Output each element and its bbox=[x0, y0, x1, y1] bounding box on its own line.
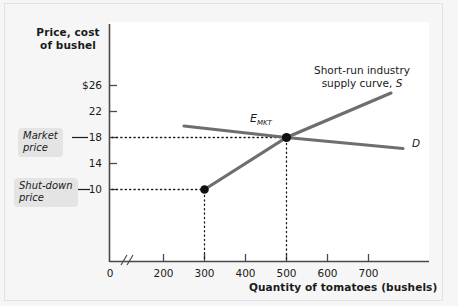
market-price-callout: Market price bbox=[18, 128, 63, 157]
y-tick-label-22: 22 bbox=[68, 106, 102, 117]
supply-curve-label-text: supply curve, bbox=[322, 77, 393, 89]
equilibrium-label-subscript: MKT bbox=[257, 119, 272, 127]
x-tick-label-500: 500 bbox=[270, 268, 304, 279]
supply-curve-label: Short-run industry supply curve, S bbox=[302, 64, 422, 90]
shutdown-point-marker bbox=[200, 185, 209, 194]
x-axis-origin-label: 0 bbox=[93, 268, 127, 279]
x-tick-label-400: 400 bbox=[229, 268, 263, 279]
axis-break-icon bbox=[121, 255, 133, 265]
market-price-callout-line1: Market bbox=[23, 130, 58, 142]
equilibrium-point-label: EMKT bbox=[250, 112, 272, 127]
y-tick-label-14: 14 bbox=[68, 158, 102, 169]
shutdown-price-callout-line1: Shut-down bbox=[19, 180, 73, 192]
x-tick-label-300: 300 bbox=[188, 268, 222, 279]
x-axis-ticks bbox=[164, 254, 369, 262]
x-axis-title: Quantity of tomatoes (bushels) bbox=[249, 281, 437, 294]
x-tick-label-700: 700 bbox=[352, 268, 386, 279]
y-axis-title-line1: Price, cost bbox=[31, 26, 105, 39]
y-tick-label-26: $26 bbox=[68, 80, 102, 91]
equilibrium-point-marker bbox=[282, 133, 291, 142]
x-tick-label-200: 200 bbox=[147, 268, 181, 279]
x-tick-label-600: 600 bbox=[311, 268, 345, 279]
equilibrium-label-main: E bbox=[250, 112, 257, 125]
market-price-callout-line2: price bbox=[23, 142, 58, 154]
y-axis-title-line2: of bushel bbox=[31, 39, 105, 52]
y-axis-title: Price, cost of bushel bbox=[31, 26, 105, 52]
supply-curve-symbol: S bbox=[396, 77, 403, 89]
supply-curve-label-line2: supply curve, S bbox=[302, 77, 422, 90]
shutdown-price-callout: Shut-down price bbox=[14, 178, 78, 207]
y-tick-label-18: 18 bbox=[68, 132, 102, 143]
supply-curve-label-line1: Short-run industry bbox=[302, 64, 422, 77]
demand-curve-label: D bbox=[412, 137, 420, 150]
supply-curve bbox=[205, 93, 392, 190]
shutdown-price-callout-line2: price bbox=[19, 192, 73, 204]
figure-container: Price, cost of bushel Quantity of tomato… bbox=[0, 0, 458, 306]
demand-curve bbox=[184, 126, 403, 149]
